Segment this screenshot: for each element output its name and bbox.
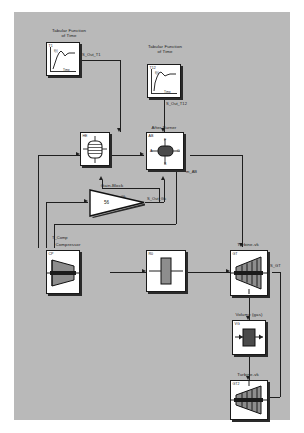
wire-gain-in bbox=[46, 202, 88, 203]
plot-y-label-1: f(t) bbox=[54, 49, 58, 53]
shaft-icon bbox=[147, 251, 185, 291]
block-tabular-function-1[interactable]: T1 f(t) Time bbox=[46, 42, 80, 76]
gain-triangle-icon bbox=[88, 188, 146, 218]
after-burner-icon bbox=[147, 133, 183, 169]
block-heat-exchanger[interactable]: HE bbox=[80, 132, 110, 166]
block-after-burner[interactable]: AB A B C F bbox=[146, 132, 184, 170]
arrow-gain-to-ab bbox=[161, 176, 165, 180]
plot-y-label-2: f(t) bbox=[155, 71, 159, 75]
model-canvas[interactable]: Tabular Function of Time T1 f(t) Time S_… bbox=[14, 12, 290, 420]
block-volume-gas[interactable]: VG bbox=[232, 320, 266, 355]
wire-t1-out bbox=[80, 60, 120, 61]
caption-tabular-function-2: Tabular Function of Time bbox=[130, 44, 200, 54]
signal-label-s-out-t12: S_Out_T12 bbox=[166, 102, 187, 107]
signal-label-t-comp: T_Comp bbox=[52, 236, 68, 241]
wire-comp-to-shaft bbox=[110, 272, 146, 273]
turbine-icon-1 bbox=[231, 251, 267, 295]
block-tag-gk: Gk bbox=[121, 195, 126, 199]
arrow-to-he-bottom bbox=[99, 176, 103, 180]
signal-label-s-out-t1: S_Out_T1 bbox=[82, 53, 101, 58]
turbine-icon-2 bbox=[231, 381, 267, 419]
wire-ab-out-v bbox=[242, 155, 243, 247]
wire-left-bus-h bbox=[38, 155, 80, 156]
gain-value: 56 bbox=[104, 201, 109, 205]
plot-x-label-2: Time bbox=[164, 90, 171, 94]
plot-area-1: f(t) Time bbox=[50, 47, 76, 72]
wire-t1-down bbox=[120, 60, 121, 132]
caption-turbine-1: Turbine-vk bbox=[218, 242, 278, 247]
signal-label-m-ab: m_AB bbox=[186, 170, 197, 175]
compressor-icon bbox=[47, 251, 79, 293]
caption-volume-gas: Volume (gas) bbox=[220, 312, 278, 317]
plot-area-2: f(t) Time bbox=[151, 69, 177, 94]
block-tabular-function-2[interactable]: T12 f(t) Time bbox=[147, 64, 181, 98]
caption-turbine-2: Turbine-vk bbox=[218, 372, 278, 377]
wire-comp-bus-h bbox=[54, 224, 176, 225]
arrow-t1-to-he bbox=[117, 128, 121, 132]
signal-label-s-gt: S_GT bbox=[270, 264, 281, 269]
wire-comp-bus-v2 bbox=[176, 167, 177, 224]
block-turbine-1[interactable]: GT bbox=[230, 250, 268, 296]
wire-ab-out-h bbox=[190, 155, 242, 156]
wire-gain-out bbox=[145, 202, 164, 203]
diagram-page: Tabular Function of Time T1 f(t) Time S_… bbox=[0, 0, 304, 433]
block-shaft[interactable]: R0 bbox=[146, 250, 186, 292]
wire-sgt-h bbox=[272, 272, 280, 273]
wire-he-to-ab bbox=[110, 155, 144, 156]
caption-after-burner: After Burner bbox=[132, 125, 196, 130]
caption-compressor: Compressor bbox=[40, 242, 96, 247]
arrow-he-to-ab bbox=[140, 152, 144, 156]
caption-tabular-function-1: Tabular Function of Time bbox=[34, 28, 104, 38]
wire-left-bus-v bbox=[38, 155, 39, 248]
wire-sgt-v bbox=[280, 272, 281, 397]
block-turbine-2[interactable]: GT2 bbox=[230, 380, 268, 420]
block-gain[interactable]: Gk 56 bbox=[88, 188, 146, 218]
heat-exchanger-icon bbox=[81, 133, 109, 165]
signal-label-s-out-gk: S_Out_Gk bbox=[147, 197, 166, 202]
wire-turbine-to-shaft bbox=[186, 272, 230, 273]
volume-gas-icon bbox=[233, 321, 265, 354]
block-compressor[interactable]: CP bbox=[46, 250, 80, 294]
plot-x-label-1: Time bbox=[63, 68, 70, 72]
